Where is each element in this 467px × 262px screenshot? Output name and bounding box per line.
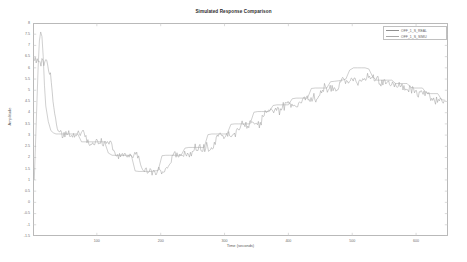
x-tick-label: 500 xyxy=(340,239,364,243)
y-tick-label: 7.5 xyxy=(8,32,30,36)
y-tick-label: 8 xyxy=(8,21,30,25)
plot-canvas xyxy=(33,23,448,236)
x-tick-label: 300 xyxy=(213,239,237,243)
y-tick-label: 2 xyxy=(8,155,30,159)
series-layer xyxy=(34,32,445,180)
x-tick-label: 100 xyxy=(85,239,109,243)
series-line xyxy=(34,57,444,175)
y-tick-label: 6.5 xyxy=(8,54,30,58)
y-tick-label: 5.5 xyxy=(8,77,30,81)
y-tick-label: 5 xyxy=(8,88,30,92)
tick-marks xyxy=(33,23,448,236)
y-tick-label: 1 xyxy=(8,178,30,182)
y-tick-label: -0.5 xyxy=(8,211,30,215)
x-tick-label: 600 xyxy=(404,239,428,243)
series-line xyxy=(34,32,445,180)
y-tick-label: 0.5 xyxy=(8,189,30,193)
y-tick-label: -1 xyxy=(8,223,30,227)
legend-swatch-real xyxy=(386,30,399,31)
chart-figure: Simulated Response Comparison -1.5-1-0.5… xyxy=(0,0,467,262)
y-tick-label: 1.5 xyxy=(8,167,30,171)
y-tick-label: 0 xyxy=(8,200,30,204)
legend[interactable]: OFF_1_S_REAL OFF_1_S_SIMU xyxy=(383,26,447,40)
x-axis-label: Time (seconds) xyxy=(33,243,448,248)
x-tick-label: 200 xyxy=(149,239,173,243)
legend-label-simu: OFF_1_S_SIMU xyxy=(401,35,427,39)
legend-item: OFF_1_S_SIMU xyxy=(386,34,444,39)
y-tick-label: 2.5 xyxy=(8,144,30,148)
chart-title: Simulated Response Comparison xyxy=(0,9,467,14)
y-axis-label: Amplitude xyxy=(7,95,12,139)
x-tick-label: 400 xyxy=(276,239,300,243)
legend-item: OFF_1_S_REAL xyxy=(386,28,444,33)
y-tick-label: -1.5 xyxy=(8,234,30,238)
legend-swatch-simu xyxy=(386,36,399,37)
legend-label-real: OFF_1_S_REAL xyxy=(401,29,427,33)
y-tick-label: 7 xyxy=(8,43,30,47)
y-tick-label: 6 xyxy=(8,66,30,70)
